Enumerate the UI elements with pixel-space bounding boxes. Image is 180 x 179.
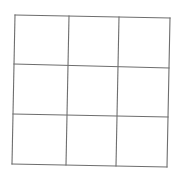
grid-border-right (167, 18, 170, 167)
grid-border-bottom (12, 164, 167, 167)
grid-border-left (12, 15, 15, 164)
grid-diagram (0, 0, 180, 179)
grid-line-horizontal-2 (13, 114, 168, 117)
grid-line-vertical-2 (116, 17, 119, 166)
grid-svg (0, 0, 180, 179)
grid-line-horizontal-1 (14, 64, 169, 68)
grid-line-vertical-1 (66, 16, 69, 165)
grid-border-top (15, 15, 170, 18)
